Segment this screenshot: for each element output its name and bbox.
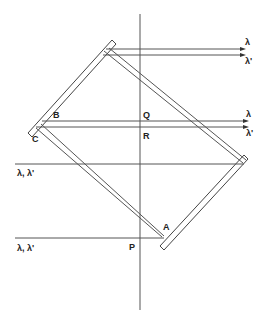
label-point-A: A	[163, 222, 170, 232]
lower-right-mirror	[160, 155, 248, 250]
optical-diagram: λ λ' λ λ' λ, λ' λ, λ' B C Q R A P	[0, 0, 262, 329]
diagonal-beam-top-1	[104, 51, 243, 163]
label-input-lower: λ, λ'	[17, 243, 34, 253]
label-point-P: P	[129, 242, 135, 252]
label-point-R: R	[143, 131, 150, 141]
label-top-lambda: λ	[245, 37, 250, 47]
diagonal-beam-lower-1	[36, 128, 162, 237]
label-mid-lambda: λ	[246, 109, 251, 119]
label-input-upper: λ, λ'	[17, 168, 34, 178]
arrow-head-icon	[240, 47, 246, 51]
label-point-B: B	[53, 110, 60, 120]
diagonal-beam-top-2	[109, 48, 246, 160]
label-mid-lambda-prime: λ'	[246, 128, 253, 138]
label-top-lambda-prime: λ'	[245, 56, 252, 66]
arrow-head-icon	[243, 119, 249, 123]
upper-left-mirror	[28, 40, 116, 137]
label-point-C: C	[32, 134, 39, 144]
label-point-Q: Q	[143, 110, 150, 120]
